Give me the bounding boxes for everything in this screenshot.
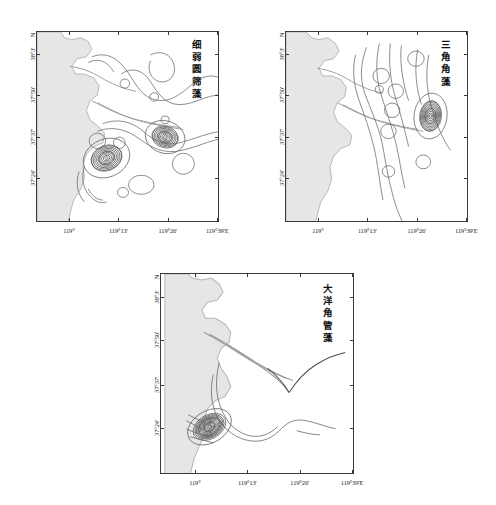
x-tick-bottom-2 [417, 218, 418, 222]
x-tick-top-0 [69, 31, 70, 35]
x-tick-label-2: 119°26' [158, 227, 177, 234]
x-tick-top-1 [367, 31, 368, 35]
y-tick-label-text-3: 37°24' [29, 163, 36, 193]
y-tick-left-3 [285, 178, 289, 179]
y-tick-left-0 [285, 54, 289, 55]
y-tick-label-1: 37°50' [29, 95, 36, 125]
y-tick-right-3 [464, 178, 468, 179]
map-frame-1: 细弱圆筛藻 [36, 31, 219, 222]
x-tick-bottom-3 [217, 218, 218, 222]
x-tick-top-2 [168, 31, 169, 35]
y-tick-left-0 [160, 297, 164, 298]
x-tick-bottom-0 [69, 218, 70, 222]
x-tick-label-0: 119° [312, 227, 324, 234]
x-tick-bottom-3 [466, 218, 467, 222]
y-tick-right-2 [464, 137, 468, 138]
x-tick-bottom-3 [352, 470, 353, 474]
y-tick-left-2 [36, 137, 40, 138]
x-tick-bottom-2 [168, 218, 169, 222]
y-tick-label-text-2: 37°37' [278, 122, 285, 152]
x-tick-top-2 [300, 273, 301, 277]
x-tick-bottom-1 [367, 218, 368, 222]
x-tick-bottom-1 [118, 218, 119, 222]
map-frame-3: 大洋角管藻 [160, 273, 354, 474]
y-tick-label-text-2: 37°37' [29, 122, 36, 152]
panel-title-1: 细弱圆筛藻 [189, 40, 204, 101]
north-label-text: N [153, 262, 160, 292]
north-label: N [278, 35, 285, 65]
x-tick-bottom-0 [195, 470, 196, 474]
y-tick-right-1 [350, 340, 354, 341]
north-label-text: N [29, 20, 36, 50]
y-tick-left-2 [160, 385, 164, 386]
y-tick-label-1: 37°50' [153, 340, 160, 370]
figure-root: 细弱圆筛藻119°119°13'119°26'119°39'E38°3'37°5… [0, 0, 496, 505]
y-tick-label-3: 37°24' [278, 178, 285, 208]
x-tick-top-1 [118, 31, 119, 35]
x-tick-label-3: 119°39'E [341, 479, 364, 486]
panel-title-2: 三角角藻 [438, 40, 453, 89]
x-tick-top-3 [352, 273, 353, 277]
x-tick-label-3: 119°39'E [206, 227, 229, 234]
x-tick-bottom-1 [247, 470, 248, 474]
y-tick-label-text-1: 37°50' [278, 80, 285, 110]
panel-title-3: 大洋角管藻 [320, 284, 335, 345]
y-tick-right-0 [215, 54, 219, 55]
x-tick-label-1: 119°13' [358, 227, 377, 234]
y-tick-label-text-1: 37°50' [29, 80, 36, 110]
y-tick-label-2: 37°37' [153, 385, 160, 415]
y-tick-left-2 [285, 137, 289, 138]
map-panel-3: 大洋角管藻119°119°13'119°26'119°39'E38°3'37°5… [160, 273, 354, 474]
x-tick-label-0: 119° [189, 479, 201, 486]
x-tick-label-3: 119°39'E [455, 227, 478, 234]
y-tick-label-3: 37°24' [153, 428, 160, 458]
x-tick-top-3 [217, 31, 218, 35]
x-tick-top-0 [195, 273, 196, 277]
y-tick-left-0 [36, 54, 40, 55]
y-tick-left-3 [36, 178, 40, 179]
map-panel-2: 三角角藻119°119°13'119°26'119°39'E38°3'37°50… [285, 31, 468, 222]
x-tick-label-0: 119° [63, 227, 75, 234]
x-tick-top-3 [466, 31, 467, 35]
x-tick-label-1: 119°13' [109, 227, 128, 234]
y-tick-label-1: 37°50' [278, 95, 285, 125]
map-panel-1: 细弱圆筛藻119°119°13'119°26'119°39'E38°3'37°5… [36, 31, 219, 222]
x-tick-top-2 [417, 31, 418, 35]
y-tick-right-2 [350, 385, 354, 386]
north-label-text: N [278, 20, 285, 50]
y-tick-label-text-2: 37°37' [153, 370, 160, 400]
y-tick-label-text-1: 37°50' [153, 325, 160, 355]
y-tick-right-1 [464, 95, 468, 96]
x-tick-bottom-2 [300, 470, 301, 474]
y-tick-left-1 [160, 340, 164, 341]
map-frame-2: 三角角藻 [285, 31, 468, 222]
y-tick-left-1 [285, 95, 289, 96]
y-tick-right-2 [215, 137, 219, 138]
y-tick-label-text-3: 37°24' [278, 163, 285, 193]
y-tick-left-3 [160, 428, 164, 429]
y-tick-right-3 [350, 428, 354, 429]
y-tick-right-0 [350, 297, 354, 298]
y-tick-left-1 [36, 95, 40, 96]
y-tick-label-text-3: 37°24' [153, 413, 160, 443]
x-tick-top-1 [247, 273, 248, 277]
x-tick-label-2: 119°26' [407, 227, 426, 234]
north-label: N [153, 277, 160, 307]
x-tick-top-0 [318, 31, 319, 35]
y-tick-right-0 [464, 54, 468, 55]
y-tick-right-3 [215, 178, 219, 179]
y-tick-right-1 [215, 95, 219, 96]
x-tick-label-1: 119°13' [238, 479, 257, 486]
x-tick-label-2: 119°26' [290, 479, 309, 486]
north-label: N [29, 35, 36, 65]
y-tick-label-3: 37°24' [29, 178, 36, 208]
x-tick-bottom-0 [318, 218, 319, 222]
